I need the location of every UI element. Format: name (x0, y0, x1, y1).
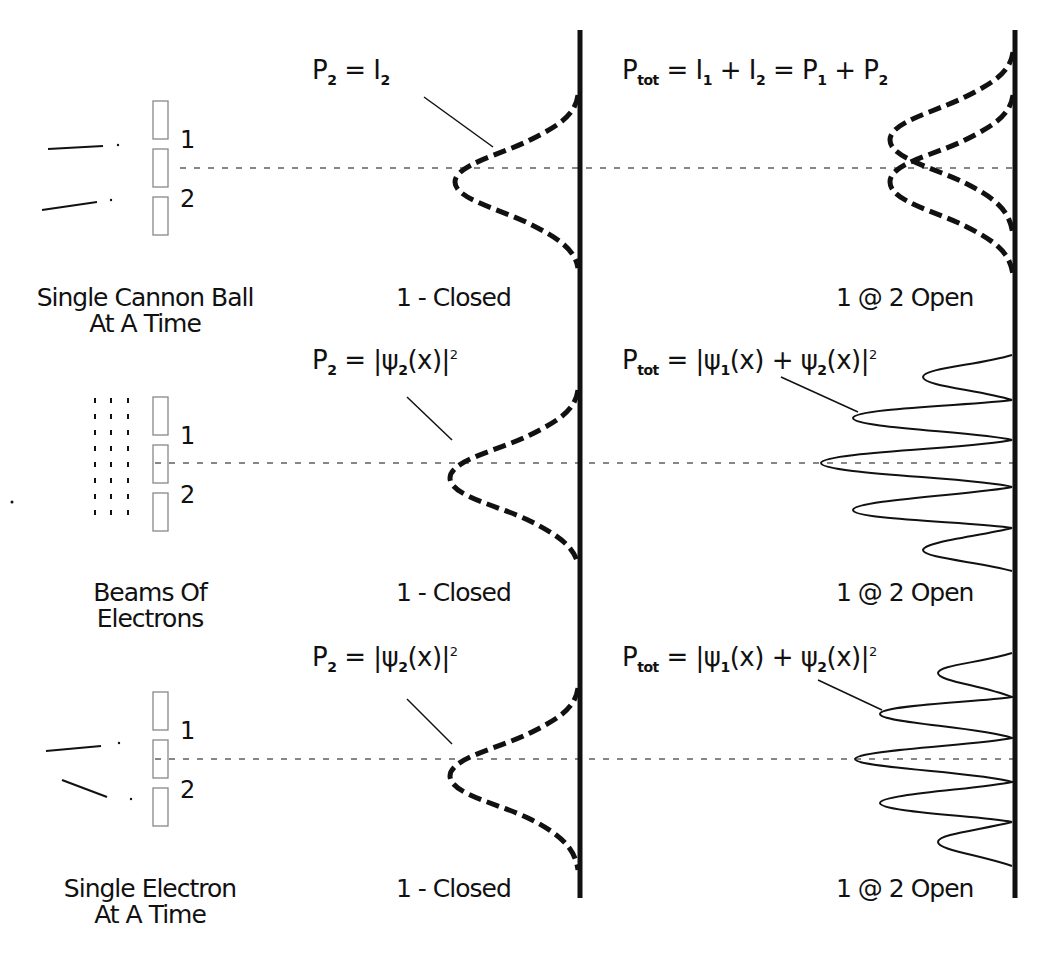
slit-wall (153, 397, 168, 531)
closed-equation: P2 = |ψ2(x)|2 (312, 642, 458, 675)
interference-pattern (855, 653, 1012, 866)
pointer-line (781, 377, 858, 412)
open-equation: Ptot = |ψ1(x) + ψ2(x)|2 (622, 642, 877, 675)
source-label-line2: At A Time (45, 902, 255, 928)
pointer-line (424, 97, 493, 147)
slit-1-label: 1 (180, 717, 195, 745)
slit-1-label: 1 (180, 422, 195, 450)
slit-2-label: 2 (180, 776, 195, 804)
source-label-line1: Beams Of (60, 580, 240, 606)
row-single-electron (46, 653, 1015, 870)
probability-curve-slit2 (890, 95, 1013, 275)
slit-2-label: 2 (180, 185, 195, 213)
double-slit-diagram (0, 0, 1053, 958)
slit-wall (153, 101, 168, 235)
source-label: Single Electron At A Time (45, 876, 255, 929)
open-label: 1 @ 2 Open (836, 876, 973, 902)
closed-label: 1 - Closed (396, 580, 511, 606)
probability-curve-closed (450, 688, 578, 870)
source-label-line1: Single Electron (45, 876, 255, 902)
probability-curve-closed (455, 95, 578, 268)
electron-trajectories (46, 746, 107, 797)
cannon-ball-trajectories (42, 146, 103, 210)
probability-curve-closed (450, 390, 578, 565)
row-electron-beams (11, 355, 1016, 571)
closed-equation: P2 = I2 (312, 55, 390, 88)
closed-label: 1 - Closed (396, 876, 511, 902)
electron-beam-lines (95, 398, 128, 525)
source-label-line2: At A Time (30, 311, 260, 337)
closed-equation: P2 = |ψ2(x)|2 (312, 345, 458, 378)
open-equation: Ptot = I1 + I2 = P1 + P2 (622, 55, 888, 88)
open-label: 1 @ 2 Open (836, 580, 973, 606)
stray-dot (11, 501, 14, 504)
source-label-line2: Electrons (60, 606, 240, 632)
open-equation: Ptot = |ψ1(x) + ψ2(x)|2 (622, 345, 877, 378)
source-label: Beams Of Electrons (60, 580, 240, 633)
source-label-line1: Single Cannon Ball (30, 285, 260, 311)
slit-2-label: 2 (180, 481, 195, 509)
pointer-line (407, 699, 452, 744)
source-label: Single Cannon Ball At A Time (30, 285, 260, 338)
slit-1-label: 1 (180, 126, 195, 154)
open-label: 1 @ 2 Open (836, 285, 973, 311)
pointer-line (407, 397, 452, 440)
closed-label: 1 - Closed (396, 285, 511, 311)
pointer-line (818, 680, 882, 710)
